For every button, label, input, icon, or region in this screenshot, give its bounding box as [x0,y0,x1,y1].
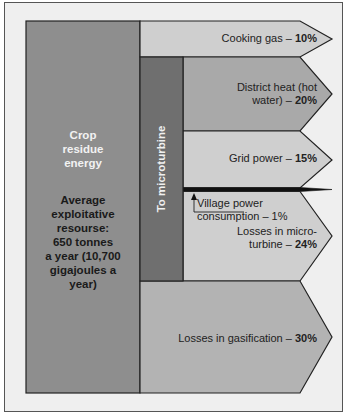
label-text: water) – [252,94,295,106]
label-value: 30% [295,332,317,344]
label-value: 24% [295,238,317,250]
label-value: 15% [295,152,317,164]
label-text: Cooking gas – [222,32,295,44]
losses-gasification-label: Losses in gasification – 30% [150,332,317,345]
label-text: Grid power – [229,152,295,164]
village-power-label: Village power consumption – 1% [197,197,288,223]
label-text: Losses in micro- [190,225,317,238]
label-value: 20% [295,94,317,106]
source-desc-line: Average [26,193,140,207]
source-desc-line: year) [26,277,140,291]
label-text: consumption – [197,210,272,222]
label-value: 1% [272,210,288,222]
source-title-line: residue [26,142,140,156]
source-desc-line: a year (10,700 [26,249,140,263]
label-text: District heat (hot [190,81,317,94]
source-desc-line: exploitative [26,207,140,221]
source-description: Average exploitative resourse: 650 tonne… [26,193,140,291]
label-value: 10% [295,32,317,44]
source-desc-line: gigajoules a [26,263,140,277]
label-text: Losses in gasification – [178,332,295,344]
label-text: turbine – [249,238,295,250]
source-desc-line: resourse: [26,221,140,235]
grid-power-label: Grid power – 15% [190,152,317,165]
cooking-gas-label: Cooking gas – 10% [190,32,317,45]
source-title-line: Crop [26,128,140,142]
source-title-line: energy [26,156,140,170]
label-text: Village power [197,197,288,210]
source-title: Crop residue energy [26,128,140,170]
losses-microturbine-label: Losses in micro- turbine – 24% [190,225,317,251]
source-desc-line: 650 tonnes [26,235,140,249]
district-heat-label: District heat (hot water) – 20% [190,81,317,107]
microturbine-label-text: To microturbine [156,126,168,213]
microturbine-label: To microturbine [140,57,183,281]
